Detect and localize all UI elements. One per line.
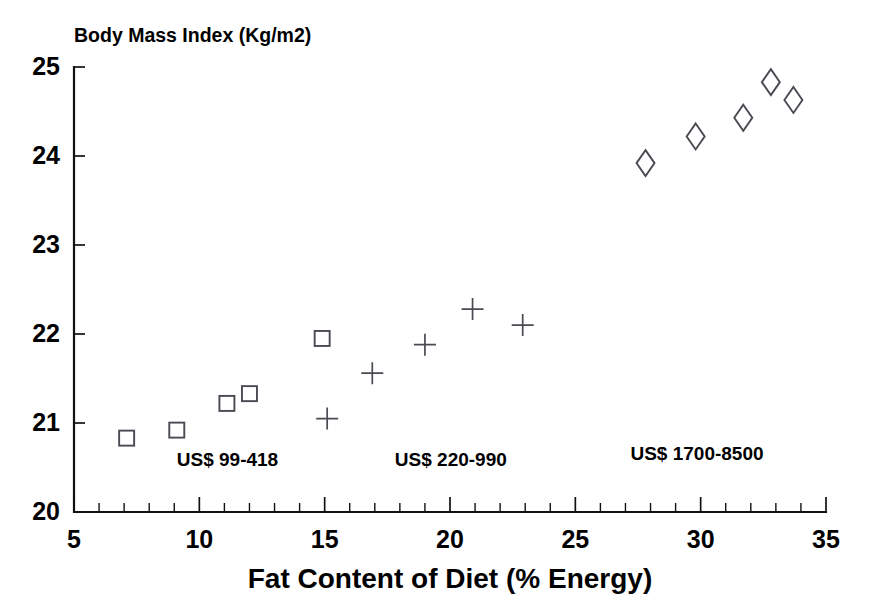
x-tick-label: 30: [687, 525, 715, 553]
series-annotations: US$ 99-418US$ 220-990US$ 1700-8500: [177, 443, 764, 469]
scatter-plot: 2021222324255101520253035 US$ 99-418US$ …: [0, 0, 876, 611]
y-tick-label: 23: [32, 230, 60, 258]
y-tick-label: 25: [32, 52, 60, 80]
chart-figure: 2021222324255101520253035 US$ 99-418US$ …: [0, 0, 876, 611]
data-point: [242, 386, 257, 401]
data-point: [219, 396, 234, 411]
x-tick-label: 15: [311, 525, 339, 553]
x-tick-label: 20: [436, 525, 464, 553]
series-diamond: [637, 69, 803, 176]
data-point: [687, 123, 705, 149]
axis-tick-labels: 2021222324255101520253035: [32, 52, 840, 553]
data-point: [512, 314, 534, 336]
data-point: [462, 298, 484, 320]
y-tick-label: 24: [32, 141, 60, 169]
y-tick-label: 21: [32, 408, 60, 436]
data-markers: [119, 69, 802, 446]
data-point: [169, 423, 184, 438]
x-tick-label: 25: [561, 525, 589, 553]
y-axis-title: Body Mass Index (Kg/m2): [74, 24, 311, 46]
x-tick-label: 10: [185, 525, 213, 553]
y-tick-label: 20: [32, 497, 60, 525]
data-point: [316, 408, 338, 430]
series-square: [119, 331, 330, 446]
x-tick-label: 35: [812, 525, 840, 553]
data-point: [361, 362, 383, 384]
data-point: [637, 150, 655, 176]
series-annotation: US$ 1700-8500: [630, 443, 763, 464]
data-point: [784, 87, 802, 113]
y-tick-label: 22: [32, 319, 60, 347]
x-axis-title: Fat Content of Diet (% Energy): [248, 563, 652, 594]
data-point: [762, 69, 780, 95]
series-plus: [316, 298, 534, 429]
x-tick-label: 5: [67, 525, 81, 553]
series-annotation: US$ 220-990: [395, 449, 507, 470]
series-annotation: US$ 99-418: [177, 449, 278, 470]
data-point: [414, 334, 436, 356]
data-point: [315, 331, 330, 346]
data-point: [734, 105, 752, 131]
data-point: [119, 431, 134, 446]
